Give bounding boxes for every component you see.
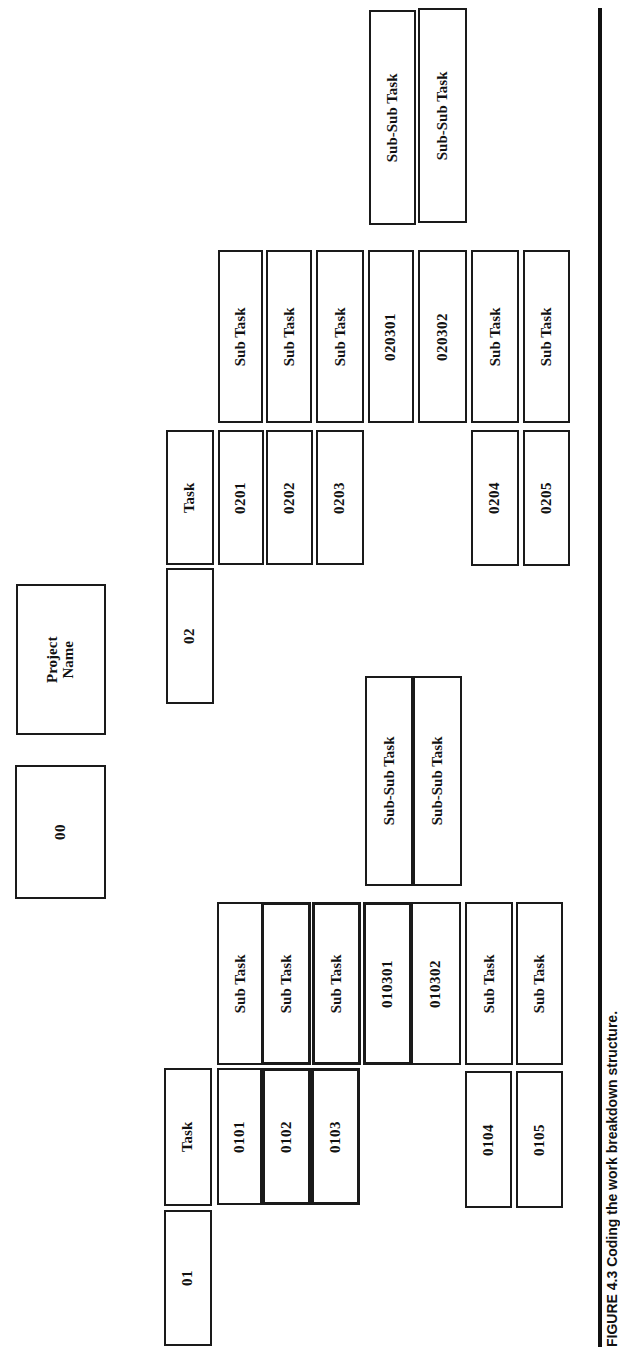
subtask-0205-box: Sub Task (523, 250, 570, 423)
code-0205-box: 0205 (523, 430, 570, 566)
subsubtask-010301-box: Sub-Sub Task (365, 676, 413, 886)
subtask-0105-box: Sub Task (516, 902, 563, 1065)
subtask-0103-box: Sub Task (312, 902, 361, 1065)
code-0204-box: 0204 (471, 430, 519, 566)
root-label: Project Name (45, 636, 77, 682)
code-010302-box: 010302 (411, 902, 461, 1065)
code-020301-box: 020301 (368, 250, 414, 423)
caption-rule (598, 8, 602, 1347)
root-code: 00 (53, 824, 69, 840)
code-0202-box: 0202 (266, 430, 313, 565)
subsubtask-020302-box: Sub-Sub Task (418, 8, 467, 223)
code-0104-box: 0104 (465, 1071, 512, 1208)
subtask-0204-box: Sub Task (471, 250, 519, 423)
subtask-0102-box: Sub Task (261, 902, 311, 1065)
code-0102-box: 0102 (262, 1068, 311, 1205)
branch-02-label-box: Task (166, 430, 214, 565)
subsubtask-010302-box: Sub-Sub Task (413, 676, 462, 886)
root-label-box: Project Name (16, 584, 106, 735)
code-0105-box: 0105 (516, 1071, 563, 1208)
branch-01-code-box: 01 (164, 1210, 212, 1346)
root-code-box: 00 (15, 765, 106, 899)
code-0101-box: 0101 (217, 1068, 262, 1205)
subtask-0201-box: Sub Task (218, 250, 263, 423)
subtask-0203-box: Sub Task (316, 250, 364, 423)
subtask-0101-box: Sub Task (217, 902, 263, 1065)
subtask-0202-box: Sub Task (266, 250, 312, 423)
subsubtask-020301-box: Sub-Sub Task (369, 10, 416, 225)
code-0103-box: 0103 (311, 1068, 360, 1205)
branch-01-label-box: Task (164, 1068, 212, 1206)
code-010301-box: 010301 (363, 902, 412, 1065)
code-0203-box: 0203 (316, 430, 364, 565)
figure-caption: FIGURE 4.3 Coding the work breakdown str… (604, 1011, 620, 1347)
branch-02-code-box: 02 (166, 568, 214, 704)
subtask-0104-box: Sub Task (465, 902, 513, 1065)
code-020302-box: 020302 (418, 250, 467, 423)
code-0201-box: 0201 (218, 430, 264, 565)
